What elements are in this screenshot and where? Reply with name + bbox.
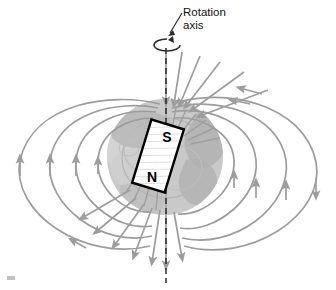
polar-ray-north-4: [192, 72, 244, 110]
polar-ray-south-5: [96, 198, 136, 232]
rotation-axis-label: Rotation axis: [183, 6, 226, 31]
polar-ray-south-1: [152, 210, 160, 262]
polar-ray-north-2: [180, 56, 200, 104]
figure-canvas: S N Rotation axis: [0, 0, 336, 290]
scan-artifact-mark: [7, 276, 15, 280]
magnet-south-pole-label: S: [162, 129, 171, 145]
magnetic-field-diagram: S N: [0, 0, 336, 290]
polar-ray-north-5: [200, 90, 268, 116]
rotation-axis-label-line1: Rotation: [183, 6, 226, 19]
polar-ray-north-1: [174, 52, 182, 104]
polar-ray-south-7: [174, 212, 182, 258]
polar-ray-north-3: [186, 62, 220, 106]
magnet-north-pole-label: N: [147, 169, 157, 185]
rotation-axis-label-line2: axis: [183, 19, 226, 32]
rotation-arrow-icon: [154, 36, 180, 51]
label-leader-line: [168, 13, 182, 36]
